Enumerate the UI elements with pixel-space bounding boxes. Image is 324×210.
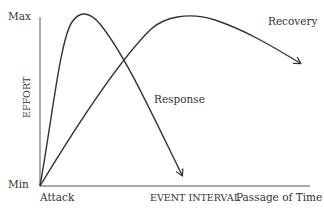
recovery-label: Recovery	[268, 15, 317, 27]
y-min-label: Min	[8, 178, 29, 190]
effort-diagram: Max Min EFFORT Attack EVENT INTERVAL Pas…	[0, 0, 324, 210]
x-start-label: Attack	[39, 191, 75, 203]
response-label: Response	[154, 93, 205, 105]
x-end-label: Passage of Time	[236, 191, 322, 203]
x-axis-title: EVENT INTERVAL	[150, 192, 241, 203]
y-max-label: Max	[8, 10, 31, 22]
y-axis-title: EFFORT	[21, 76, 32, 118]
